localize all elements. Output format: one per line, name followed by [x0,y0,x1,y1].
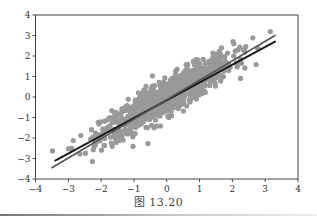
data-point [220,75,225,80]
data-point [168,109,173,114]
data-point [102,119,107,124]
data-point [214,52,219,57]
data-point [219,45,224,50]
data-point [150,73,155,78]
data-point [71,138,76,143]
data-point [89,127,94,132]
data-point [195,69,200,74]
data-point [189,95,194,100]
data-point [195,85,200,90]
data-point [268,29,273,34]
data-point [183,75,188,80]
data-point [128,111,133,116]
data-point [176,106,181,111]
data-point [192,63,197,68]
data-point [152,95,157,100]
data-point [145,141,150,146]
y-tick-label: 3 [25,31,31,41]
data-point [96,120,101,125]
regression-lines [52,36,275,168]
data-point [99,148,104,153]
data-point [254,62,259,67]
data-point [78,133,83,138]
data-point [146,97,151,102]
data-point [50,148,55,153]
data-point [151,101,156,106]
y-tick-label: −1 [17,113,30,123]
data-point [102,143,107,148]
data-point [183,68,188,73]
data-point [114,140,119,145]
data-point [199,66,204,71]
data-point [179,82,184,87]
data-point [123,126,128,131]
data-point [141,88,146,93]
y-tick-label: 1 [25,72,31,82]
data-point [231,53,236,58]
data-point [112,119,117,124]
y-tick-label: 2 [25,51,31,61]
data-point [130,104,135,109]
data-point [194,75,199,80]
data-point [158,123,163,128]
data-point [250,35,255,40]
data-point [66,146,71,151]
data-point [210,63,215,68]
y-tick-label: 4 [25,10,31,20]
data-point [235,64,240,69]
data-point [206,59,211,64]
data-point [109,140,114,145]
y-axis-ticks: −4−3−2−101234 [17,10,35,184]
data-point [231,39,236,44]
data-point [188,69,193,74]
data-point [117,118,122,123]
data-point [101,126,106,131]
data-point [147,117,152,122]
data-point [175,67,180,72]
data-point [120,132,125,137]
data-point [143,125,148,130]
x-axis-ticks: −4−3−2−101234 [29,179,301,194]
data-point [83,151,88,156]
data-point [207,83,212,88]
data-point [157,82,162,87]
data-point [91,147,96,152]
data-point [112,114,117,119]
data-point [211,56,216,61]
data-point [123,108,128,113]
data-point [126,97,131,102]
scatter-chart: −4−3−2−101234 −4−3−2−101234 [0,0,317,219]
data-point [197,61,202,66]
y-tick-label: 0 [25,92,31,102]
y-tick-label: −4 [17,174,31,184]
data-point [130,121,135,126]
y-tick-label: −3 [17,154,31,164]
data-point [157,112,162,117]
data-point [200,91,205,96]
scatter-points [50,29,273,164]
data-point [136,96,141,101]
divider [0,214,317,216]
data-point [130,144,135,149]
data-point [181,109,186,114]
data-point [185,62,190,67]
data-point [188,74,193,79]
figure-caption: 图 13.20 [0,193,317,209]
data-point [172,87,177,92]
data-point [225,50,230,55]
data-point [157,94,162,99]
data-point [184,103,189,108]
data-point [237,44,242,49]
data-point [177,75,182,80]
data-point [242,66,247,71]
data-point [90,159,95,164]
data-point [238,76,243,81]
data-point [168,79,173,84]
data-point [136,118,141,123]
data-point [163,90,168,95]
data-point [169,113,174,118]
data-point [109,108,114,113]
data-point [149,123,154,128]
y-tick-label: −2 [17,133,30,143]
data-point [118,111,123,116]
